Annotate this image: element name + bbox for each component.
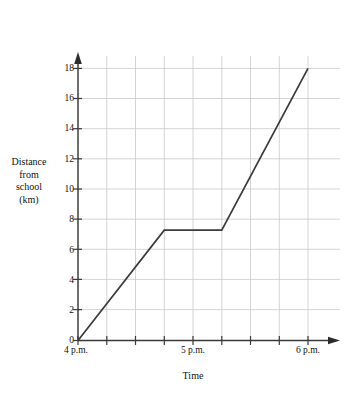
x-axis-arrow-icon <box>328 337 340 345</box>
y-axis <box>74 52 82 341</box>
x-axis <box>78 337 340 345</box>
horizontal-gridlines <box>78 68 340 309</box>
distance-time-graph: Distance from school (km) 18 16 14 12 10… <box>0 0 358 399</box>
plot-area <box>0 0 358 399</box>
y-axis-arrow-icon <box>74 52 82 64</box>
